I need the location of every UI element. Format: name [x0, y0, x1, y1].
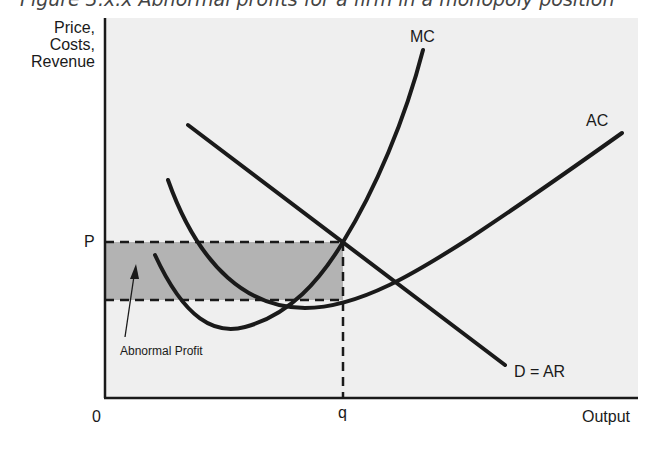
q-tick-label: q	[338, 404, 347, 421]
y-axis-label-line: Costs,	[0, 36, 95, 53]
y-axis-label-line: Revenue	[0, 53, 95, 70]
ac-label: AC	[586, 112, 608, 129]
mc-label: MC	[410, 28, 435, 45]
x-axis-label: Output	[582, 408, 630, 425]
y-axis-label: Price, Costs, Revenue	[0, 19, 95, 70]
origin-label: 0	[92, 408, 101, 425]
demand-ar-label: D = AR	[514, 363, 565, 380]
price-tick-label: P	[84, 233, 95, 250]
y-axis-label-line: Price,	[0, 19, 95, 36]
abnormal-profit-label: Abnormal Profit	[120, 343, 203, 360]
chart-plot	[0, 0, 651, 460]
